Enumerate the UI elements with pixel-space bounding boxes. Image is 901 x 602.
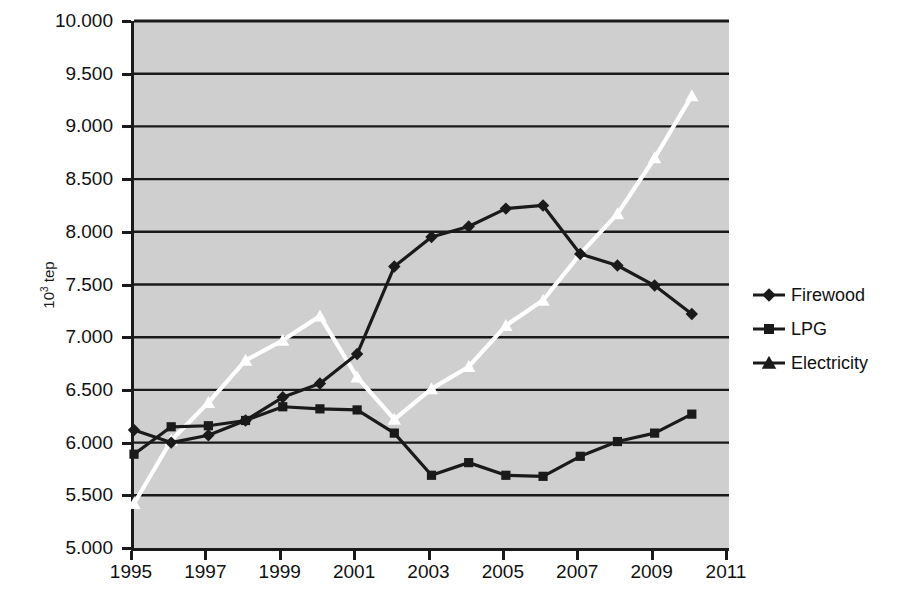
- data-point-marker: [462, 220, 474, 232]
- y-axis-tick-label: 9.000: [0, 116, 113, 135]
- y-axis-tick-mark: [122, 125, 131, 128]
- y-axis-tick-label: 8.000: [0, 222, 113, 241]
- legend-label: Firewood: [791, 285, 865, 306]
- y-axis-tick-mark: [122, 494, 131, 497]
- y-axis-tick-mark: [122, 389, 131, 392]
- legend-label: LPG: [791, 319, 827, 340]
- data-point-marker: [685, 89, 698, 101]
- y-axis-tick-label: 8.500: [0, 169, 113, 188]
- y-axis-tick-mark: [122, 336, 131, 339]
- data-point-marker: [167, 422, 176, 431]
- series-line: [134, 407, 692, 477]
- plot-area: [131, 21, 729, 551]
- y-axis-tick-label: 5.000: [0, 538, 113, 557]
- x-axis-tick-mark: [279, 551, 282, 560]
- triangle-marker-icon: [752, 353, 786, 373]
- x-axis-tick-label: 2011: [681, 562, 771, 581]
- data-point-marker: [202, 429, 214, 441]
- data-point-marker: [128, 424, 140, 436]
- data-point-marker: [464, 458, 473, 467]
- data-point-marker: [390, 429, 399, 438]
- data-point-marker: [427, 471, 436, 480]
- legend-item-lpg[interactable]: LPG: [752, 312, 897, 346]
- y-axis-tick-label: 6.500: [0, 380, 113, 399]
- x-axis-tick-mark: [428, 551, 431, 560]
- y-axis-tick-label: 5.500: [0, 485, 113, 504]
- data-point-marker: [687, 410, 696, 419]
- y-axis-tick-mark: [122, 442, 131, 445]
- data-point-marker: [611, 259, 623, 271]
- legend: FirewoodLPGElectricity: [752, 278, 897, 380]
- legend-label: Electricity: [791, 353, 868, 374]
- data-point-marker: [353, 405, 362, 414]
- square-marker-icon: [752, 319, 786, 339]
- line-chart: 103 tep 5.0005.5006.0006.5007.0007.5008.…: [0, 0, 901, 602]
- data-point-marker: [500, 202, 512, 214]
- series-line: [134, 96, 692, 504]
- y-axis-tick-label: 7.000: [0, 327, 113, 346]
- x-axis-tick-mark: [353, 551, 356, 560]
- y-axis-tick-mark: [122, 231, 131, 234]
- y-axis-tick-label: 9.500: [0, 64, 113, 83]
- x-axis-tick-mark: [651, 551, 654, 560]
- data-point-marker: [650, 429, 659, 438]
- y-axis-tick-label: 6.000: [0, 433, 113, 452]
- data-point-marker: [313, 309, 326, 321]
- y-axis-tick-mark: [122, 284, 131, 287]
- series-layer: [134, 21, 729, 548]
- y-axis-tick-label: 7.500: [0, 275, 113, 294]
- series-lpg: [129, 402, 696, 481]
- x-axis-tick-mark: [576, 551, 579, 560]
- y-axis-tick-mark: [122, 547, 131, 550]
- x-axis-tick-mark: [130, 551, 133, 560]
- y-axis-tick-mark: [122, 73, 131, 76]
- legend-item-firewood[interactable]: Firewood: [752, 278, 897, 312]
- legend-item-electricity[interactable]: Electricity: [752, 346, 897, 380]
- data-point-marker: [129, 450, 138, 459]
- data-point-marker: [576, 452, 585, 461]
- series-firewood: [128, 199, 698, 449]
- y-axis-tick-mark: [122, 20, 131, 23]
- y-axis-title-base: 10: [40, 292, 57, 309]
- series-electricity: [127, 89, 698, 509]
- x-axis-tick-mark: [725, 551, 728, 560]
- data-point-marker: [613, 437, 622, 446]
- series-line: [134, 205, 692, 442]
- x-axis-tick-mark: [204, 551, 207, 560]
- data-point-marker: [204, 421, 213, 430]
- data-point-marker: [315, 404, 324, 413]
- data-point-marker: [278, 402, 287, 411]
- diamond-marker-icon: [752, 285, 786, 305]
- data-point-marker: [241, 416, 250, 425]
- x-axis-tick-mark: [502, 551, 505, 560]
- data-point-marker: [501, 471, 510, 480]
- data-point-marker: [538, 472, 547, 481]
- y-axis-tick-mark: [122, 178, 131, 181]
- y-axis-tick-label: 10.000: [0, 11, 113, 30]
